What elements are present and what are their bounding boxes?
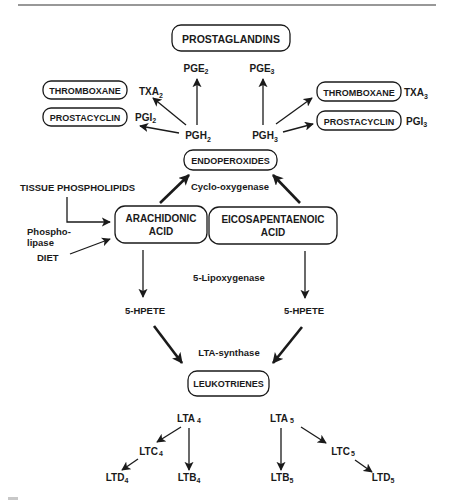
arrow-hpete-right-to-leukotrienes — [273, 327, 302, 363]
lipoxygenase-label: 5-Lipoxygenase — [193, 272, 265, 283]
prostacyclin-right-node: PROSTACYCLIN — [317, 111, 401, 130]
arrow-pgh3-to-pgi3 — [283, 124, 313, 132]
pgh3-label: PGH3 — [252, 130, 278, 143]
pge2-label: PGE2 — [183, 63, 208, 75]
thromboxane-left-node: THROMBOXANE — [43, 81, 127, 99]
arrow-diet-to-arachidonic — [70, 239, 110, 254]
prostacyclin-left-node: PROSTACYCLIN — [43, 108, 127, 126]
arachidonic-acid-box — [115, 206, 207, 243]
prostacyclin-left-label: PROSTACYCLIN — [50, 113, 120, 123]
eicosanoid-pathway-diagram: PROSTAGLANDINS PGE2 PGE3 THROMBOXANE TXA… — [0, 0, 450, 503]
arrow-lta4-to-ltc4 — [157, 427, 181, 442]
arrow-pgh2-to-pgi2 — [140, 126, 179, 133]
phospholipase-label-line1: Phospho- — [27, 226, 71, 237]
eicosapentaenoic-acid-node: EICOSAPENTAENOIC ACID — [209, 207, 337, 244]
arachidonic-acid-node: ARACHIDONIC ACID — [115, 206, 207, 243]
endoperoxides-label: ENDOPEROXIDES — [191, 156, 270, 166]
phospholipase-label-line2: lipase — [27, 237, 54, 248]
cyclooxygenase-label: Cyclo-oxygenase — [191, 181, 269, 192]
arrow-hpete-left-to-leukotrienes — [154, 326, 182, 363]
eicosapentaenoic-acid-line2: ACID — [261, 227, 285, 238]
hpete-right-label: 5-HPETE — [284, 305, 324, 316]
pgh2-label: PGH2 — [185, 130, 211, 143]
diet-label: DIET — [37, 252, 59, 263]
lta4-label: LTA4 — [177, 413, 201, 424]
endoperoxides-node: ENDOPEROXIDES — [184, 150, 277, 170]
arrow-ltc4-to-ltd4 — [122, 459, 138, 470]
cut-off-caption-fragment — [8, 497, 18, 500]
lta5-label: LTA5 — [270, 413, 294, 424]
ltb5-label: LTB5 — [271, 472, 294, 484]
prostaglandins-label: PROSTAGLANDINS — [182, 33, 280, 45]
tissue-phospholipids-label: TISSUE PHOSPHOLIPIDS — [20, 182, 135, 193]
thromboxane-right-node: THROMBOXANE — [317, 82, 401, 101]
hpete-left-label: 5-HPETE — [125, 305, 165, 316]
txa2-label: TXA2 — [139, 86, 163, 99]
prostaglandins-node: PROSTAGLANDINS — [172, 25, 290, 51]
txa3-label: TXA3 — [404, 87, 428, 100]
arrow-tissue-phospholipids-to-arachidonic — [67, 197, 110, 222]
eicosapentaenoic-acid-box — [209, 207, 337, 244]
prostacyclin-right-label: PROSTACYCLIN — [324, 117, 394, 127]
lta-synthase-label: LTA-synthase — [198, 347, 259, 358]
thromboxane-left-label: THROMBOXANE — [49, 86, 121, 96]
pgi2-label: PGI2 — [135, 112, 156, 124]
leukotrienes-node: LEUKOTRIENES — [188, 371, 269, 396]
eicosapentaenoic-acid-line1: EICOSAPENTAENOIC — [221, 214, 324, 225]
arachidonic-acid-line2: ACID — [149, 226, 173, 237]
leukotrienes-label: LEUKOTRIENES — [193, 379, 264, 389]
arrow-arachidonic-to-endoperoxides — [160, 175, 189, 203]
ltc4-label: LTC4 — [139, 446, 163, 457]
arrow-eicosapentaenoic-to-endoperoxides — [273, 175, 300, 203]
ltb4-label: LTB4 — [178, 472, 201, 484]
ltd5-label: LTD5 — [372, 472, 395, 484]
ltd4-label: LTD4 — [106, 472, 129, 484]
thromboxane-right-label: THROMBOXANE — [323, 88, 395, 98]
pge3-label: PGE3 — [249, 63, 274, 75]
pgi3-label: PGI3 — [406, 116, 427, 128]
arrow-pgh3-to-txa3 — [276, 98, 312, 124]
ltc5-label: LTC5 — [331, 446, 355, 457]
arachidonic-acid-line1: ARACHIDONIC — [125, 213, 196, 224]
arrow-pgh2-to-txa2 — [153, 98, 186, 125]
arrow-ltc5-to-ltd5 — [355, 460, 372, 472]
arrow-lta5-to-ltc5 — [301, 427, 326, 443]
